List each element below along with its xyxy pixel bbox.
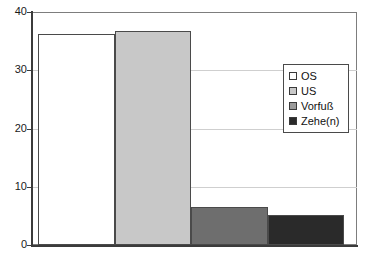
y-axis-tick: 30: [0, 64, 31, 75]
y-axis-tick-label: 20: [15, 123, 31, 134]
bar-us: [115, 31, 192, 245]
legend-label: US: [301, 85, 316, 97]
bar-zehe-n: [268, 215, 345, 245]
legend-entry: Vorfuß: [289, 99, 343, 113]
legend-entry: US: [289, 84, 343, 98]
bar-chart: 010203040 OSUSVorfußZehe(n): [0, 0, 367, 258]
legend-label: Vorfuß: [301, 100, 333, 112]
bar-os: [38, 34, 115, 245]
legend-entry: OS: [289, 69, 343, 83]
y-axis-tick: 40: [0, 6, 31, 17]
legend-entry: Zehe(n): [289, 114, 343, 128]
y-axis-tick-label: 0: [21, 239, 31, 250]
legend-swatch-icon: [289, 102, 297, 110]
bar-vorfu: [191, 207, 268, 245]
y-axis-tick-label: 40: [15, 6, 31, 17]
y-axis-tick: 0: [0, 239, 31, 250]
legend-label: OS: [301, 70, 317, 82]
y-axis-tick: 10: [0, 181, 31, 192]
chart-legend: OSUSVorfußZehe(n): [283, 64, 349, 133]
y-axis-tick-label: 10: [15, 181, 31, 192]
y-axis-tick-label: 30: [15, 64, 31, 75]
legend-swatch-icon: [289, 87, 297, 95]
legend-label: Zehe(n): [301, 115, 340, 127]
legend-swatch-icon: [289, 117, 297, 125]
legend-swatch-icon: [289, 72, 297, 80]
x-axis-line: [31, 245, 358, 247]
y-axis-tick: 20: [0, 123, 31, 134]
